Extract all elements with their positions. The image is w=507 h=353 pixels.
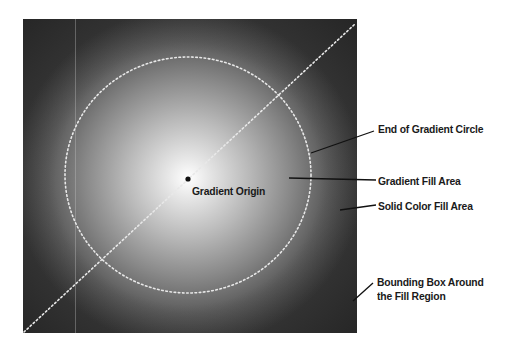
label-solid-color-fill-area: Solid Color Fill Area bbox=[378, 200, 473, 212]
gradient-end-circle bbox=[65, 57, 311, 293]
label-bounding-box-line2: the Fill Region bbox=[377, 290, 446, 302]
diagram-canvas: Gradient Origin End of Gradient Circle G… bbox=[0, 0, 507, 353]
label-end-of-gradient-circle: End of Gradient Circle bbox=[378, 123, 483, 135]
gradient-origin-marker bbox=[185, 176, 190, 181]
leader-line-bounding-box bbox=[353, 283, 373, 301]
label-bounding-box-line1: Bounding Box Around bbox=[377, 276, 484, 288]
leader-line-gradient-fill bbox=[289, 178, 376, 180]
label-gradient-origin: Gradient Origin bbox=[192, 185, 265, 197]
leader-line-solid-fill bbox=[340, 205, 376, 210]
label-gradient-fill-area: Gradient Fill Area bbox=[378, 175, 461, 187]
leader-line-gradient-circle bbox=[311, 131, 374, 153]
